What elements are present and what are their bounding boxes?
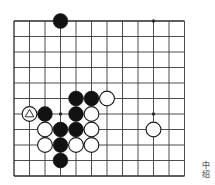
stone-disc[interactable] [84, 122, 99, 137]
stone-disc[interactable] [53, 153, 68, 168]
stone-disc[interactable] [53, 138, 68, 153]
go-diagram-root: 中 绍 [0, 0, 215, 185]
stone-disc[interactable] [69, 107, 84, 122]
stone-disc[interactable] [38, 107, 53, 122]
stone-black[interactable] [84, 91, 99, 106]
stone-black[interactable] [69, 122, 84, 137]
stone-white[interactable] [22, 107, 37, 122]
stone-disc[interactable] [84, 107, 99, 122]
stone-white[interactable] [69, 138, 84, 153]
stone-black[interactable] [53, 153, 68, 168]
stone-disc[interactable] [84, 138, 99, 153]
stone-disc[interactable] [69, 122, 84, 137]
star-point [152, 19, 155, 22]
stone-disc[interactable] [84, 91, 99, 106]
stone-white[interactable] [38, 138, 53, 153]
stone-black[interactable] [53, 138, 68, 153]
stone-white[interactable] [146, 122, 161, 137]
stone-disc[interactable] [38, 138, 53, 153]
stone-disc[interactable] [38, 122, 53, 137]
stone-white[interactable] [100, 91, 115, 106]
stone-disc[interactable] [69, 138, 84, 153]
stone-white[interactable] [84, 107, 99, 122]
stone-white[interactable] [84, 138, 99, 153]
stone-disc[interactable] [69, 91, 84, 106]
caption-char-2: 绍 [199, 170, 213, 179]
stone-disc[interactable] [53, 14, 68, 29]
stone-disc[interactable] [146, 122, 161, 137]
caption-char-1: 中 [199, 161, 213, 170]
stone-disc[interactable] [53, 122, 68, 137]
stone-white[interactable] [84, 122, 99, 137]
stone-black[interactable] [69, 107, 84, 122]
caption-vertical-text: 中 绍 [199, 161, 213, 179]
star-point [59, 112, 62, 115]
go-board[interactable] [0, 0, 215, 185]
star-point [152, 112, 155, 115]
stone-disc[interactable] [100, 91, 115, 106]
stone-black[interactable] [38, 107, 53, 122]
stone-black[interactable] [53, 122, 68, 137]
stone-black[interactable] [53, 14, 68, 29]
stone-black[interactable] [69, 91, 84, 106]
stone-white[interactable] [38, 122, 53, 137]
